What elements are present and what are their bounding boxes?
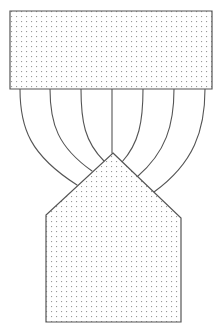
source-block-shape xyxy=(10,11,212,89)
diagram-canvas xyxy=(0,0,222,335)
funnel-diagram xyxy=(0,0,222,335)
